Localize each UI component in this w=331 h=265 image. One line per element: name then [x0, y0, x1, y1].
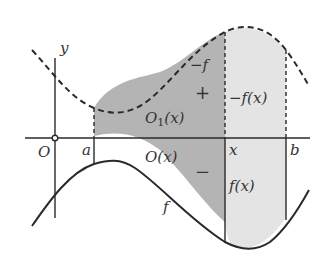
neg-f-x-label: −f(x) — [229, 89, 267, 107]
minus-sign: − — [195, 161, 210, 182]
o1-x-label: O1(x) — [145, 109, 185, 129]
f-label: f — [162, 198, 171, 216]
area-function-diagram: y O a x b −f f −f(x) f(x) O1(x) O(x) + − — [0, 0, 331, 265]
a-label: a — [82, 141, 91, 159]
x-label: x — [229, 141, 238, 159]
diagram-canvas: y O a x b −f f −f(x) f(x) O1(x) O(x) + − — [0, 0, 331, 265]
f-x-label: f(x) — [228, 177, 255, 195]
origin-point — [52, 135, 58, 141]
b-label: b — [290, 141, 300, 159]
neg-f-label: −f — [190, 56, 211, 74]
plus-sign: + — [195, 82, 210, 103]
origin-label: O — [38, 143, 50, 161]
o-x-label: O(x) — [145, 148, 178, 166]
y-axis-label: y — [59, 39, 69, 57]
